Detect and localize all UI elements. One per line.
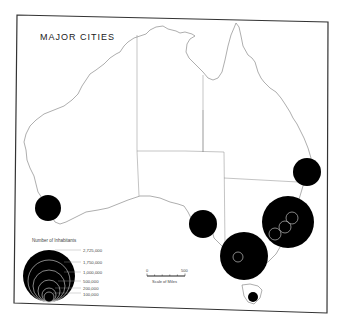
legend-title: Number of Inhabitants	[32, 238, 77, 243]
city-adelaide[interactable]	[189, 210, 217, 238]
scale-end-label: 500	[181, 268, 188, 273]
city-markers	[35, 158, 321, 302]
legend-label-5: 200,000	[83, 286, 99, 291]
scale-caption: Scale of Miles	[152, 279, 177, 284]
legend-label-2: 1,750,000	[83, 260, 103, 265]
city-perth[interactable]	[35, 195, 61, 221]
legend-circle-6	[44, 292, 54, 302]
legend-label-3: 1,000,000	[83, 270, 103, 275]
legend-label-1: 2,725,000	[83, 248, 103, 253]
city-hobart[interactable]	[248, 292, 258, 302]
map-title: MAJOR CITIES	[40, 32, 115, 42]
scale-start-label: 0	[146, 268, 149, 273]
legend-label-4: 500,000	[83, 279, 99, 284]
legend-label-6: 100,000	[83, 292, 99, 297]
city-brisbane[interactable]	[293, 158, 321, 186]
legend: Number of Inhabitants 2,725,000 1,750,00…	[23, 238, 103, 302]
city-melbourne[interactable]	[220, 232, 268, 280]
scale-bar: 0 500 Scale of Miles	[146, 268, 188, 284]
map-canvas: MAJOR CITIES Number of Inhabitants	[0, 0, 341, 323]
